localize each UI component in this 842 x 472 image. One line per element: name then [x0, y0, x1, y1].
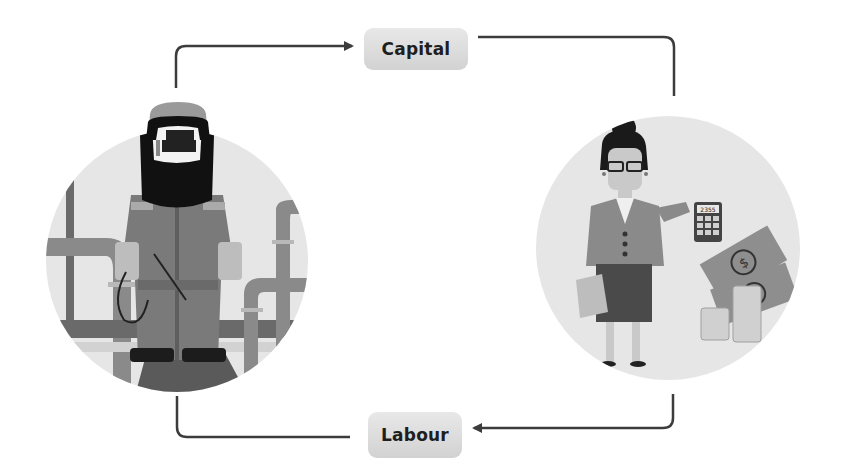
line-labour-to-worker	[177, 396, 350, 437]
capital-label: Capital	[364, 28, 468, 70]
businesswoman-money-icon: 2355 $	[536, 116, 800, 380]
arrow-businesswoman-to-labour	[474, 394, 673, 428]
calculator-display: 2355	[700, 206, 715, 213]
businesswoman-illustration: 2355 $	[536, 116, 800, 380]
welder-worker-icon	[46, 130, 308, 392]
welder-helmet-top	[138, 100, 218, 140]
worker-illustration	[46, 130, 308, 392]
arrow-worker-to-capital	[176, 46, 352, 88]
line-capital-to-businesswoman	[478, 37, 674, 96]
labour-label: Labour	[368, 412, 462, 458]
